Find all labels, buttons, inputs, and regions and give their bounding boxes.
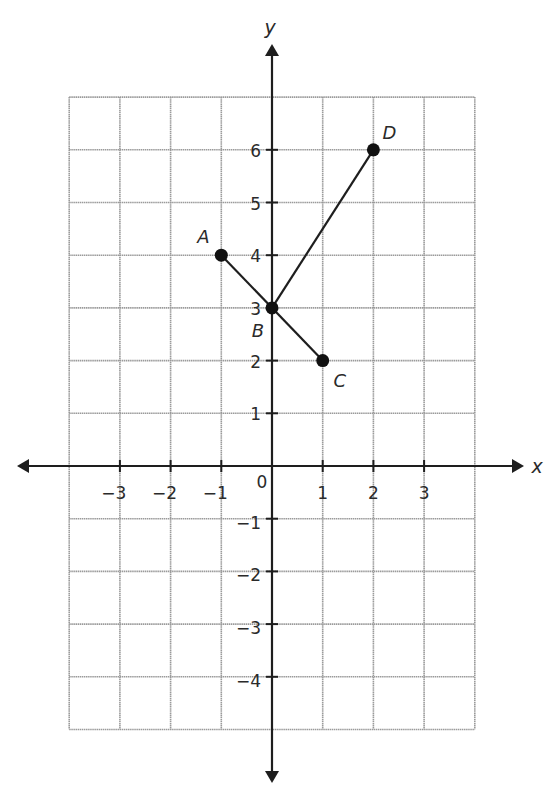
y-tick-label: −2 bbox=[236, 565, 261, 585]
y-axis-label: y bbox=[263, 16, 276, 38]
y-tick-label: 5 bbox=[250, 194, 261, 214]
y-tick-label: −4 bbox=[236, 671, 261, 691]
x-tick-label: −3 bbox=[101, 483, 126, 503]
x-tick-label: 1 bbox=[317, 483, 328, 503]
x-axis-label: x bbox=[530, 455, 543, 477]
origin-label: 0 bbox=[257, 472, 268, 492]
point-label-C: C bbox=[333, 370, 346, 391]
y-tick-label: 4 bbox=[250, 246, 261, 266]
y-tick-label: 2 bbox=[250, 352, 261, 372]
x-axis-left-arrow-icon bbox=[17, 459, 29, 473]
y-tick-label: 6 bbox=[250, 141, 261, 161]
y-tick-label: 3 bbox=[250, 299, 261, 319]
labels: xyABCD bbox=[196, 16, 543, 477]
point-A bbox=[215, 249, 228, 262]
point-label-D: D bbox=[382, 122, 396, 143]
x-tick-label: 2 bbox=[368, 483, 379, 503]
y-axis-up-arrow-icon bbox=[265, 44, 279, 56]
y-tick-label: −1 bbox=[236, 513, 261, 533]
y-tick-label: 1 bbox=[250, 404, 261, 424]
point-B bbox=[266, 301, 279, 314]
x-axis-right-arrow-icon bbox=[512, 459, 524, 473]
x-tick-label: 3 bbox=[419, 483, 430, 503]
coordinate-plane: −3−2−1123−4−3−2−11234560 xyABCD bbox=[0, 0, 555, 795]
y-tick-label: −3 bbox=[236, 618, 261, 638]
point-label-B: B bbox=[252, 320, 264, 341]
y-axis-down-arrow-icon bbox=[265, 771, 279, 783]
x-tick-label: −2 bbox=[152, 483, 177, 503]
ticks: −3−2−1123−4−3−2−11234560 bbox=[101, 141, 429, 691]
x-tick-label: −1 bbox=[203, 483, 228, 503]
point-C bbox=[316, 354, 329, 367]
point-label-A: A bbox=[196, 226, 209, 247]
point-D bbox=[367, 143, 380, 156]
